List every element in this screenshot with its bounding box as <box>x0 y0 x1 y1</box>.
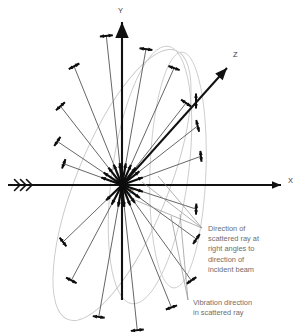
scattering-ellipse-right <box>146 51 210 289</box>
annotation-scattered-ray-direction-line-4: direction of <box>208 255 245 264</box>
z-axis-label: Z <box>233 50 238 59</box>
ray-1 <box>106 36 122 185</box>
ray-18-inner-arrowhead <box>101 177 106 181</box>
ray-15-vibration-arrow <box>60 238 67 247</box>
annotation-scattered-ray-direction-text: Direction ofscattered ray atright angles… <box>208 224 259 274</box>
annotation-vibration-direction-line-1: Vibration direction <box>193 298 252 307</box>
axis-labels-group: XYZP <box>118 6 293 195</box>
annotation-scattered-ray-direction-line-5: incident beam <box>208 265 254 274</box>
vibration-arrows-group <box>54 34 203 333</box>
scattering-diagram-figure: XYZP Direction ofscattered ray atright a… <box>0 0 300 336</box>
annotation-scattered-ray-direction-line-3: right angles to <box>208 244 254 253</box>
z-axis <box>122 68 227 185</box>
ray-18-vibration-arrow <box>62 159 66 168</box>
annotation-vibration-direction-leader-2 <box>180 214 188 300</box>
y-axis-label: Y <box>118 6 123 15</box>
ray-3-vibration-arrow <box>168 66 179 71</box>
ray-4-vibration-arrow <box>69 64 80 70</box>
annotation-vibration-direction-line-2: in scattered ray <box>193 308 244 317</box>
ray-6-vibration-arrow <box>181 100 191 107</box>
ray-12-vibration-arrow <box>186 277 196 284</box>
ray-14-vibration-arrow <box>66 278 77 284</box>
annotation-scattered-ray-direction-leader-3 <box>135 200 202 228</box>
ray-5-vibration-arrow <box>56 102 65 110</box>
ray-11-vibration-arrow <box>166 305 177 310</box>
annotation-scattered-ray-direction-line-1: Direction of <box>208 224 246 233</box>
ray-8-vibration-arrow <box>199 151 203 162</box>
annotation-vibration-direction-text: Vibration directionin scattered ray <box>193 298 252 317</box>
diagram-canvas: XYZP Direction ofscattered ray atright a… <box>0 0 300 336</box>
y-axis-arrowhead <box>115 22 128 38</box>
annotation-scattered-ray-direction-line-2: scattered ray at <box>208 234 259 243</box>
annotation-vibration-direction-leader-1 <box>171 216 188 300</box>
ray-8-inner-arrowhead <box>138 177 143 181</box>
ray-7-vibration-arrow <box>195 120 200 132</box>
x-axis-arrowhead <box>272 181 281 189</box>
annotations-group: Direction ofscattered ray atright angles… <box>193 224 259 317</box>
x-axis-label: X <box>288 176 293 185</box>
annotation-leaders-group <box>135 176 202 300</box>
origin-point-label: P <box>129 188 134 195</box>
ray-9-vibration-arrow <box>54 137 60 146</box>
